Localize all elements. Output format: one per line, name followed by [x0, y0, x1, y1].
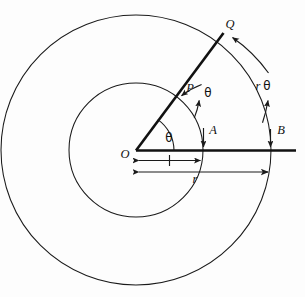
label-dimension-radius: r: [193, 172, 198, 186]
inner-arc-upper-segment: [194, 100, 199, 118]
label-vertex-theta: θ: [165, 131, 172, 145]
label-point-q: Q: [225, 17, 234, 31]
label-point-p: P: [185, 81, 194, 95]
label-origin-o: O: [120, 147, 129, 161]
outer-arc-upper-segment: [233, 38, 269, 74]
label-outer-arc-r: r: [256, 79, 261, 93]
label-point-a: A: [208, 123, 217, 137]
figure-canvas: O P Q A B θ θ r θ l r: [0, 0, 305, 297]
label-inner-arc-theta: θ: [204, 86, 211, 100]
label-point-b: B: [277, 123, 285, 137]
geometry-diagram: O P Q A B θ θ r θ l r: [0, 0, 305, 297]
label-outer-arc-rtheta: r θ: [256, 79, 271, 93]
label-outer-arc-theta: θ: [263, 79, 270, 93]
